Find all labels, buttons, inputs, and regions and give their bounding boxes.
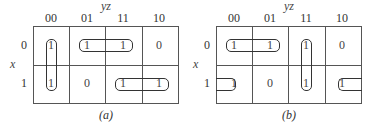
row-label-1: 1 — [18, 76, 30, 91]
group-loop-vertical-00 — [46, 39, 57, 91]
cell-x0-yz10: 0 — [324, 26, 360, 64]
row-label-1: 1 — [201, 76, 213, 91]
group-loop-vertical-11 — [301, 39, 312, 91]
row-variable-label: x — [193, 57, 198, 72]
kmap-b: yz 00 01 11 10 0 1 x 1 1 1 0 1 0 1 1 (b) — [183, 0, 369, 131]
column-label-01: 01 — [69, 11, 105, 26]
group-loop-row0-00-01 — [226, 39, 280, 52]
caption-b-text: (b) — [282, 108, 296, 122]
caption-a-text: (a) — [99, 108, 113, 122]
caption-b: (b) — [269, 108, 309, 123]
column-label-11: 11 — [288, 11, 324, 26]
caption-a: (a) — [86, 108, 126, 123]
column-label-10: 10 — [324, 11, 360, 26]
kmap-a: yz 00 01 11 10 0 1 x 1 1 1 0 1 0 1 1 (a) — [0, 0, 186, 131]
column-label-01: 01 — [252, 11, 288, 26]
row-label-0: 0 — [201, 38, 213, 53]
cell-x0-yz10: 0 — [141, 26, 177, 64]
cell-x1-yz01: 0 — [69, 64, 105, 102]
row-label-0: 0 — [18, 38, 30, 53]
column-label-11: 11 — [105, 11, 141, 26]
group-loop-row1-11-10 — [115, 78, 169, 91]
column-label-00: 00 — [33, 11, 69, 26]
column-label-00: 00 — [216, 11, 252, 26]
row-variable-label: x — [10, 57, 15, 72]
column-label-10: 10 — [141, 11, 177, 26]
group-loop-wrap-right-10 — [338, 78, 362, 91]
group-loop-wrap-left-00 — [216, 78, 236, 91]
cell-x1-yz01: 0 — [252, 64, 288, 102]
group-loop-row0-01-11 — [79, 39, 133, 52]
